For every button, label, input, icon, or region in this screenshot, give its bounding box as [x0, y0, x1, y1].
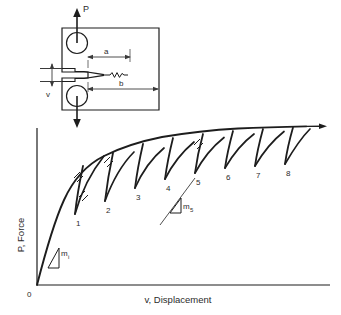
- unload-label-4: 4: [166, 184, 171, 193]
- fifth-slope-triangle: [170, 198, 181, 213]
- dimension-b: b: [87, 79, 159, 92]
- initial-slope-annotation: m i: [48, 248, 69, 268]
- figure-svg: v a b P: [0, 0, 341, 315]
- fifth-slope-label: m: [183, 202, 190, 211]
- reloading-line-7: [255, 132, 284, 167]
- reloading-line-5: [195, 138, 224, 174]
- origin-label: 0: [27, 290, 32, 299]
- specimen-schematic: v a b P: [40, 4, 159, 128]
- unload-label-7: 7: [256, 171, 261, 180]
- figure-container: v a b P: [0, 0, 341, 315]
- fifth-slope-subscript: 5: [190, 207, 194, 213]
- label-b: b: [119, 79, 124, 88]
- initial-slope-label: m: [61, 249, 68, 258]
- label-v: v: [46, 90, 50, 99]
- notch-detail: [40, 69, 128, 82]
- unload-label-3: 3: [136, 193, 141, 202]
- unload-label-5: 5: [196, 178, 201, 187]
- reloading-line-4: [165, 142, 194, 179]
- unload-label-1: 1: [76, 219, 81, 228]
- envelope-arrowhead: [319, 123, 327, 129]
- dimension-a: a: [87, 47, 131, 68]
- lower-load-arrowhead: [73, 119, 81, 128]
- y-axis-label: P, Force: [15, 218, 26, 253]
- reloading-line-3: [135, 148, 164, 188]
- x-axis-label: v, Displacement: [145, 294, 212, 305]
- reloading-line-6: [225, 134, 254, 168]
- initial-slope-triangle: [48, 248, 59, 268]
- fatigue-precrack: [104, 73, 128, 78]
- unload-label-6: 6: [226, 173, 231, 182]
- upper-load-arrowhead: [73, 8, 81, 17]
- initial-slope-subscript: i: [68, 254, 69, 260]
- load-displacement-plot: 1 2 3 4 5 6 7 8 m i m 5: [15, 123, 330, 305]
- label-P: P: [83, 4, 89, 14]
- unload-label-8: 8: [286, 169, 291, 178]
- label-a: a: [104, 47, 109, 56]
- unload-label-2: 2: [106, 206, 111, 215]
